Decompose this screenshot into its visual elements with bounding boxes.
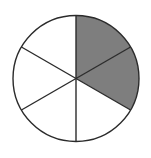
fraction-circle-svg	[0, 0, 151, 158]
fraction-circle-diagram	[0, 0, 151, 158]
